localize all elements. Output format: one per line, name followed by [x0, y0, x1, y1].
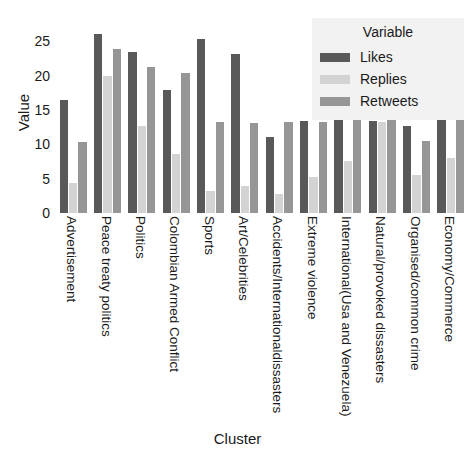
y-tick-label: 20: [24, 69, 50, 83]
x-axis-title: Cluster: [0, 430, 475, 447]
x-tick-label: Colombian Armed Conflict: [168, 216, 182, 372]
x-axis-tick-labels: AdvertisementPeace treaty politicsPoliti…: [56, 216, 468, 416]
bar-group: [228, 24, 262, 213]
bar-likes: [128, 52, 136, 214]
x-tick-label: Advertisement: [65, 216, 79, 302]
x-tick-label: Economy/Commerce: [442, 216, 456, 342]
bar-likes: [403, 126, 411, 213]
bar-retweets: [284, 122, 292, 213]
bar-likes: [300, 121, 308, 213]
legend-swatch-icon: [320, 75, 350, 84]
x-tick-label: Accidents/Internationaldissasters: [271, 216, 285, 413]
bar-replies: [241, 186, 249, 213]
bar-replies: [103, 76, 111, 213]
bar-retweets: [181, 73, 189, 213]
y-tick-label: 5: [24, 172, 50, 186]
bar-group: [262, 24, 296, 213]
x-tick-label: International(Usa and Venezuela): [339, 216, 353, 416]
bar-likes: [369, 121, 377, 213]
bar-retweets: [216, 122, 224, 213]
bar-likes: [163, 90, 171, 213]
bar-likes: [94, 34, 102, 213]
legend-title: Variable: [320, 24, 456, 40]
legend-items: LikesRepliesRetweets: [320, 46, 456, 112]
bar-likes: [60, 100, 68, 213]
legend-swatch-icon: [320, 53, 350, 62]
x-tick-label: Politics: [133, 216, 147, 259]
bar-replies: [275, 194, 283, 213]
bar-retweets: [422, 141, 430, 213]
bar-likes: [266, 137, 274, 213]
bar-chart: Value 0510152025 AdvertisementPeace trea…: [0, 0, 475, 462]
bar-group: [125, 24, 159, 213]
bar-replies: [447, 158, 455, 213]
x-tick-label: Organised/common crime: [408, 216, 422, 371]
bar-retweets: [78, 142, 86, 213]
y-tick-label: 10: [24, 137, 50, 151]
legend-label: Retweets: [360, 93, 418, 109]
bar-replies: [172, 154, 180, 213]
bar-likes: [197, 39, 205, 213]
bar-retweets: [353, 106, 361, 213]
x-tick-label: Art/Celebrities: [236, 216, 250, 301]
x-tick-label: Peace treaty politics: [99, 216, 113, 337]
bar-retweets: [113, 49, 121, 213]
legend-item-retweets[interactable]: Retweets: [320, 90, 456, 112]
bar-retweets: [147, 67, 155, 213]
bar-replies: [138, 126, 146, 213]
x-tick-label: Sports: [202, 216, 216, 255]
y-axis-tick-labels: 0510152025: [22, 0, 50, 462]
bar-retweets: [250, 123, 258, 213]
x-tick-label: Natural/provoked dissasters: [374, 216, 388, 383]
legend: Variable LikesRepliesRetweets: [312, 18, 464, 120]
legend-item-likes[interactable]: Likes: [320, 46, 456, 68]
legend-swatch-icon: [320, 97, 350, 106]
bar-group: [56, 24, 90, 213]
x-tick-label: Extreme violence: [305, 216, 319, 320]
bar-retweets: [319, 122, 327, 213]
y-tick-label: 0: [24, 206, 50, 220]
bar-likes: [437, 111, 445, 213]
legend-item-replies[interactable]: Replies: [320, 68, 456, 90]
bar-retweets: [456, 117, 464, 213]
bar-replies: [344, 161, 352, 213]
bar-replies: [69, 183, 77, 213]
bar-group: [193, 24, 227, 213]
bar-replies: [309, 177, 317, 213]
bar-retweets: [387, 120, 395, 213]
bar-replies: [206, 191, 214, 213]
bar-group: [90, 24, 124, 213]
bar-replies: [378, 122, 386, 213]
legend-label: Replies: [360, 71, 407, 87]
y-tick-label: 15: [24, 103, 50, 117]
legend-label: Likes: [360, 49, 393, 65]
bar-group: [159, 24, 193, 213]
bar-replies: [412, 175, 420, 213]
bar-likes: [231, 54, 239, 213]
y-tick-label: 25: [24, 34, 50, 48]
